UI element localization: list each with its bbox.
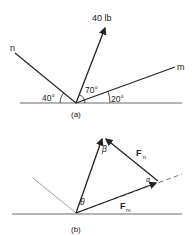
- force-label: 40 lb: [92, 13, 112, 23]
- theta-label: θ: [80, 197, 85, 207]
- fn-label: F: [136, 148, 142, 158]
- fn-label-sub: n: [143, 154, 146, 160]
- force-diagram: 40 lb n m 40° 70° 20° (a) β θ α F n F m …: [0, 0, 192, 236]
- figure-a: 40 lb n m 40° 70° 20° (a): [10, 13, 185, 119]
- arc-20: [108, 91, 110, 103]
- fm-label-sub: m: [126, 207, 131, 213]
- alpha-label: α: [146, 176, 151, 183]
- figure-b: β θ α F n F m (b): [12, 139, 182, 234]
- line-n-faint: [33, 178, 76, 213]
- arc-40: [60, 93, 64, 103]
- line-n-label: n: [10, 43, 15, 53]
- angle-40-label: 40°: [42, 93, 55, 103]
- beta-label: β: [101, 144, 107, 154]
- caption-a: (a): [71, 110, 81, 119]
- caption-b: (b): [71, 225, 81, 234]
- fm-arrow: [76, 183, 156, 213]
- angle-70-label: 70°: [85, 85, 98, 95]
- angle-20-label: 20°: [111, 94, 124, 104]
- line-m-label: m: [177, 62, 185, 72]
- fn-arrow: [106, 139, 158, 181]
